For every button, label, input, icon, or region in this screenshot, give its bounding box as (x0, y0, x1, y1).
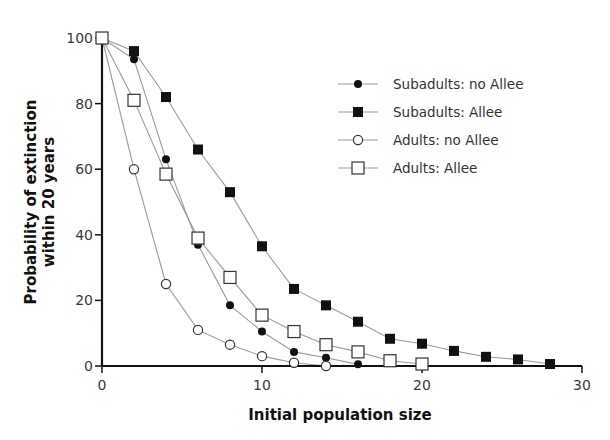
y-tick-label: 100 (66, 30, 93, 46)
data-point-marker (258, 328, 266, 336)
data-point-marker (416, 358, 428, 370)
data-point-marker (320, 339, 332, 351)
data-point-marker (289, 358, 298, 367)
data-point-marker (289, 284, 299, 294)
data-point-marker (385, 334, 395, 344)
legend-label: Adults: no Allee (393, 132, 499, 148)
legend-marker-icon (353, 135, 362, 144)
series-line-0 (102, 38, 358, 364)
data-point-marker (226, 301, 234, 309)
series-line-2 (102, 38, 326, 366)
x-tick-label: 30 (573, 377, 591, 393)
data-point-marker (257, 241, 267, 251)
data-point-marker (354, 360, 362, 368)
data-point-marker (160, 168, 172, 180)
legend-label: Subadults: Allee (393, 104, 502, 120)
y-tick-label: 80 (75, 96, 93, 112)
data-point-marker (129, 46, 139, 56)
legend-label: Adults: Allee (393, 160, 477, 176)
legend-label: Subadults: no Allee (393, 76, 523, 92)
data-point-marker (161, 92, 171, 102)
data-point-marker (256, 309, 268, 321)
data-point-marker (417, 339, 427, 349)
x-tick-label: 0 (98, 377, 107, 393)
data-point-marker (225, 340, 234, 349)
data-point-marker (193, 325, 202, 334)
chart: 0102030020406080100 Subadults: no AlleeS… (0, 0, 610, 440)
data-point-marker (224, 271, 236, 283)
y-axis-title-line-1: Probability of extinction (22, 100, 40, 305)
data-point-marker (290, 348, 298, 356)
data-point-marker (162, 155, 170, 163)
x-tick-label: 10 (253, 377, 271, 393)
data-point-marker (353, 317, 363, 327)
data-point-marker (321, 300, 331, 310)
data-point-marker (193, 145, 203, 155)
data-point-marker (161, 279, 170, 288)
x-axis-title: Initial population size (248, 406, 431, 424)
legend-marker-icon (354, 80, 362, 88)
data-point-marker (130, 55, 138, 63)
y-tick-label: 20 (75, 292, 93, 308)
data-point-marker (288, 326, 300, 338)
legend: Subadults: no AlleeSubadults: AlleeAdult… (338, 76, 523, 176)
data-point-marker (192, 232, 204, 244)
data-point-marker (96, 32, 108, 44)
legend-marker-icon (353, 107, 363, 117)
data-point-marker (384, 355, 396, 367)
data-point-marker (481, 352, 491, 362)
data-point-marker (225, 187, 235, 197)
data-point-marker (322, 354, 330, 362)
y-tick-label: 40 (75, 227, 93, 243)
y-tick-label: 60 (75, 161, 93, 177)
data-point-marker (321, 361, 330, 370)
legend-marker-icon (352, 162, 364, 174)
data-point-marker (545, 359, 555, 369)
y-axis-title-line-2: within 20 years (40, 137, 58, 267)
y-tick-label: 0 (84, 358, 93, 374)
data-point-marker (128, 94, 140, 106)
data-point-marker (129, 165, 138, 174)
data-point-marker (513, 354, 523, 364)
data-point-marker (257, 352, 266, 361)
y-axis-title: Probability of extinction within 20 year… (22, 100, 58, 305)
x-tick-label: 20 (413, 377, 431, 393)
data-point-marker (352, 346, 364, 358)
data-point-marker (449, 346, 459, 356)
